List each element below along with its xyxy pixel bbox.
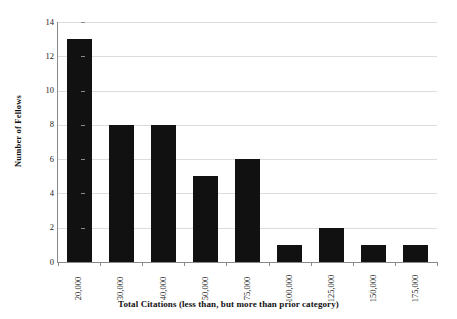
bar[interactable] [403, 245, 428, 262]
x-tick-mark [226, 262, 227, 266]
y-axis-ticks: 02468101214 [28, 0, 54, 319]
y-tick-mark [81, 56, 85, 57]
bar[interactable] [277, 245, 302, 262]
x-tick-mark [269, 262, 270, 266]
x-tick-label-text: 20,000 [75, 277, 84, 300]
y-tick-mark [81, 262, 85, 263]
x-tick-label: 50,000 [198, 267, 212, 309]
x-tick-mark [311, 262, 312, 266]
y-tick-label: 12 [32, 52, 54, 61]
plot-area [58, 22, 437, 262]
bar[interactable] [151, 125, 176, 262]
x-tick-label-text: 50,000 [201, 277, 210, 300]
x-tick-label-text: 125,000 [327, 275, 336, 303]
x-axis-title: Total Citations (less than, but more tha… [0, 299, 457, 309]
x-tick-label-text: 75,000 [243, 277, 252, 300]
y-tick-label: 0 [32, 258, 54, 267]
x-tick-label: 100,000 [283, 267, 297, 309]
y-tick-mark [81, 193, 85, 194]
x-tick-label: 30,000 [114, 267, 128, 309]
x-tick-label: 40,000 [156, 267, 170, 309]
x-tick-label-text: 100,000 [285, 275, 294, 303]
x-tick-label-text: 175,000 [411, 275, 420, 303]
gridline [58, 22, 437, 23]
y-tick-label: 6 [32, 155, 54, 164]
x-tick-mark [395, 262, 396, 266]
y-tick-label: 2 [32, 223, 54, 232]
gridline [58, 56, 437, 57]
x-tick-label-text: 30,000 [117, 277, 126, 300]
x-tick-label: 75,000 [241, 267, 255, 309]
bar[interactable] [193, 176, 218, 262]
x-tick-label-text: 150,000 [369, 275, 378, 303]
y-tick-label: 14 [32, 18, 54, 27]
y-tick-label: 8 [32, 120, 54, 129]
y-tick-label: 10 [32, 86, 54, 95]
x-tick-mark [100, 262, 101, 266]
x-tick-mark [437, 262, 438, 266]
y-axis-title: Number of Fellows [6, 0, 30, 262]
y-tick-mark [81, 159, 85, 160]
x-tick-mark [142, 262, 143, 266]
y-tick-mark [81, 228, 85, 229]
y-tick-mark [81, 91, 85, 92]
x-tick-label: 175,000 [409, 267, 423, 309]
y-tick-mark [81, 22, 85, 23]
bar[interactable] [235, 159, 260, 262]
y-tick-label: 4 [32, 189, 54, 198]
x-tick-label: 125,000 [325, 267, 339, 309]
x-axis-title-label: Total Citations (less than, but more tha… [118, 299, 339, 309]
x-tick-mark [184, 262, 185, 266]
bar[interactable] [361, 245, 386, 262]
x-axis-line [58, 262, 437, 263]
x-tick-mark [58, 262, 59, 266]
gridline [58, 91, 437, 92]
x-tick-label: 150,000 [367, 267, 381, 309]
y-axis-title-label: Number of Fellows [13, 95, 23, 167]
x-tick-label-text: 40,000 [159, 277, 168, 300]
bar[interactable] [67, 39, 92, 262]
x-tick-label: 20,000 [72, 267, 86, 309]
bar[interactable] [319, 228, 344, 262]
bar[interactable] [109, 125, 134, 262]
bar-chart: Number of Fellows 02468101214 Total Cita… [0, 0, 457, 319]
x-tick-mark [353, 262, 354, 266]
y-tick-mark [81, 125, 85, 126]
